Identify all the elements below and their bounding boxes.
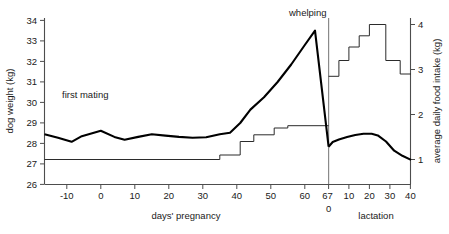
food-intake-lactation-steps [329, 25, 411, 77]
left-axis-title: dog weight (kg) [4, 69, 15, 134]
dog-weight-food-intake-chart: 34 33 32 31 30 29 28 27 26 4 3 [0, 0, 449, 234]
bottom-lactation-axis-title: lactation [358, 210, 393, 221]
lactation-zero-label: 0 [326, 203, 331, 214]
left-tick-label-30: 30 [26, 97, 37, 108]
x-tick-label-10: 10 [130, 190, 141, 201]
x-tick-label-40: 40 [232, 190, 243, 201]
right-axis-ticks: 4 3 2 1 [411, 19, 424, 165]
x-tick-label-67: 67 [322, 190, 333, 201]
chart-svg: 34 33 32 31 30 29 28 27 26 4 3 [0, 0, 449, 234]
left-tick-label-33: 33 [26, 35, 37, 46]
food-intake-pregnancy-steps [45, 126, 329, 160]
left-tick-label-31: 31 [26, 76, 37, 87]
lactation-tick-label-40: 40 [405, 190, 416, 201]
weight-curve-lactation [329, 134, 411, 160]
chart-annotations: first mating whelping [62, 7, 327, 101]
first-mating-annotation: first mating [62, 89, 108, 100]
x-tick-label-30: 30 [198, 190, 209, 201]
whelping-annotation: whelping [288, 7, 327, 18]
x-tick-label-60: 60 [300, 190, 311, 201]
left-tick-label-32: 32 [26, 56, 37, 67]
x-tick-label-20: 20 [164, 190, 175, 201]
lactation-tick-label-10: 10 [344, 190, 355, 201]
x-tick-label-50: 50 [266, 190, 277, 201]
left-tick-label-29: 29 [26, 117, 37, 128]
left-axis-ticks: 34 33 32 31 30 29 28 27 26 [26, 15, 44, 190]
left-tick-label-27: 27 [26, 158, 37, 169]
right-tick-label-4: 4 [418, 19, 423, 30]
right-tick-label-2: 2 [418, 109, 423, 120]
x-tick-label-0: 0 [98, 190, 103, 201]
lactation-tick-label-30: 30 [385, 190, 396, 201]
lactation-tick-label-20: 20 [364, 190, 375, 201]
right-axis-title: average daily food intake (kg) [431, 39, 442, 164]
right-tick-label-1: 1 [418, 154, 423, 165]
x-tick-label-minus10: -10 [60, 190, 74, 201]
left-tick-label-26: 26 [26, 179, 37, 190]
left-tick-label-28: 28 [26, 138, 37, 149]
bottom-axis-pregnancy-ticks: -10 0 10 20 30 40 50 60 67 [60, 185, 333, 202]
bottom-pregnancy-axis-title: days' pregnancy [152, 210, 221, 221]
left-tick-label-34: 34 [26, 15, 37, 26]
right-tick-label-3: 3 [418, 64, 423, 75]
